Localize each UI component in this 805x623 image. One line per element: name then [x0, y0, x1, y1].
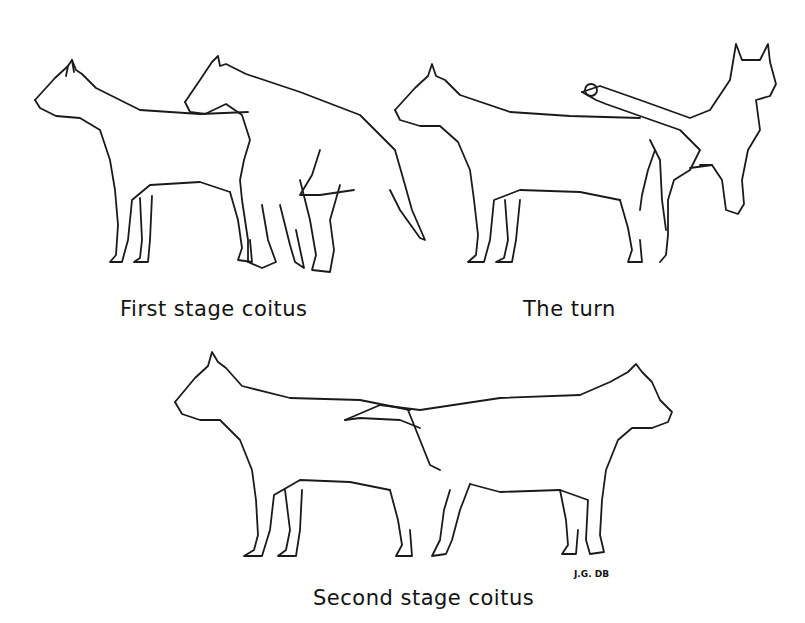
- caption-the-turn: The turn: [523, 297, 616, 321]
- dog-male-panel1: [185, 56, 425, 272]
- caption-first-stage: First stage coitus: [120, 297, 308, 321]
- artist-signature: J.G. DB: [574, 569, 609, 579]
- caption-second-stage: Second stage coitus: [313, 586, 534, 610]
- dog-female-panel1: [35, 60, 252, 262]
- dog-right-panel3: [345, 364, 672, 556]
- dog-left-panel3: [175, 352, 440, 556]
- dog-female-panel2: [395, 64, 642, 262]
- dog-male-panel2: [582, 44, 776, 262]
